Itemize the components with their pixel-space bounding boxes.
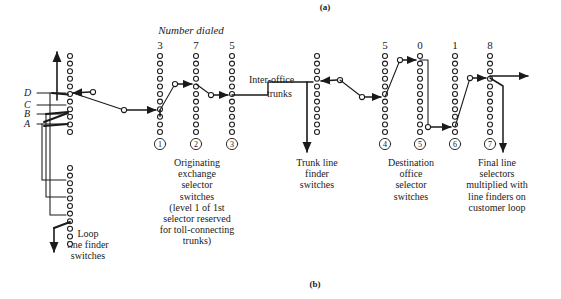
node-link-1 xyxy=(121,107,126,112)
stage-number-5: 5 xyxy=(418,140,422,149)
bank-selector-3 xyxy=(230,54,235,135)
bank-selector-1 xyxy=(158,54,163,135)
node-link-5 xyxy=(397,57,402,62)
link-into-loop-bank xyxy=(73,92,90,93)
node-link-2 xyxy=(172,81,177,86)
node-link-7 xyxy=(467,75,472,80)
link-into-trunk-bank xyxy=(321,80,337,81)
inter-office-trunk-path xyxy=(232,82,313,95)
stage-number-circles xyxy=(154,138,495,149)
bank-selector-5 xyxy=(418,54,423,135)
switching-diagram-svg: 1 2 3 4 5 6 7 xyxy=(0,0,561,299)
bank-selector-7 xyxy=(488,54,493,135)
bank-trunk-line-finder xyxy=(315,54,320,135)
link-loop-to-selector1-a xyxy=(73,93,124,110)
stage-number-1: 1 xyxy=(158,140,162,149)
link-trunk-to-selector4-a xyxy=(340,80,362,97)
node-loop-in xyxy=(90,89,95,94)
bank-loop-line-finder-lower xyxy=(68,166,73,247)
stage-number-6: 6 xyxy=(453,140,457,149)
stage-number-2: 2 xyxy=(194,140,198,149)
node-link-4 xyxy=(359,94,364,99)
bank-selector-2 xyxy=(194,54,199,135)
node-link-6 xyxy=(425,124,430,129)
stage-number-7: 7 xyxy=(488,140,492,149)
figure-container: (a) (b) Number dialed 3 7 5 5 0 1 8 D C … xyxy=(0,0,561,299)
wiper-fan-upper xyxy=(44,93,68,126)
node-link-3 xyxy=(208,92,213,97)
stage-number-4: 4 xyxy=(383,140,387,149)
stage-number-3: 3 xyxy=(230,140,234,149)
